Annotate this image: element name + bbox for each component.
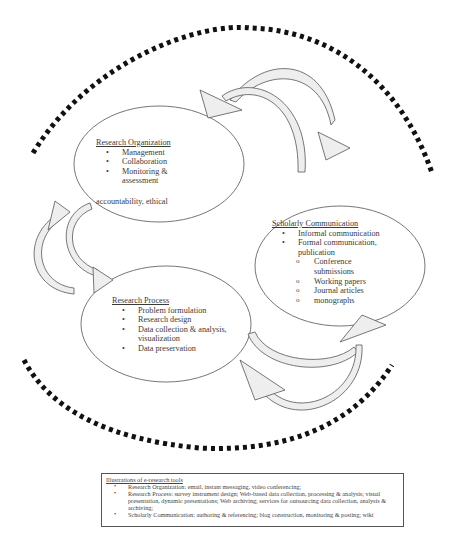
node-subitem-list: Conference submissions Working papers Jo… [286,257,412,305]
list-item: Management [96,148,216,158]
node-research-process: Research Process Problem formulation Res… [112,296,252,354]
legend-item: Scholarly Communication: authoring & ref… [106,511,399,518]
list-item: Informal communication [272,229,412,239]
node-item-list: Problem formulation Research design Data… [112,306,252,354]
sub-list-item: monographs [286,296,412,306]
list-item: Research design [112,315,252,325]
sub-list-item: Working papers [286,277,412,287]
sub-list-item: Conference submissions [286,257,364,276]
legend-item: Research Organization: email, instant me… [106,483,399,490]
sub-list-item: Journal articles [286,286,412,296]
list-item: Data collection & analysis, visualizatio… [112,325,233,344]
legend-box: Illustrations of e-research tools Resear… [101,473,404,527]
list-item: Collaboration [96,157,216,167]
list-item: Problem formulation [112,306,252,316]
arrow-org-to-process [66,203,113,293]
node-heading: Research Process [112,296,252,306]
node-scholarly-communication: Scholarly Communication Informal communi… [272,219,412,305]
node-research-organization: Research Organization Management Collabo… [96,138,216,207]
node-heading: Scholarly Communication [272,219,412,229]
legend-heading: Illustrations of e-research tools [106,476,399,483]
node-trailing-text: accountability, ethical [96,197,216,207]
list-item: Monitoring & assessment [96,167,182,186]
legend-item: Research Process: survey instrument desi… [106,490,399,511]
legend-list: Research Organization: email, instant me… [106,483,399,518]
list-item: Data preservation [112,344,252,354]
node-item-list: Informal communication Formal communicat… [272,229,412,258]
node-item-list: Management Collaboration Monitoring & as… [96,148,216,186]
list-item: Formal communication, publication [272,238,386,257]
node-heading: Research Organization [96,138,216,148]
